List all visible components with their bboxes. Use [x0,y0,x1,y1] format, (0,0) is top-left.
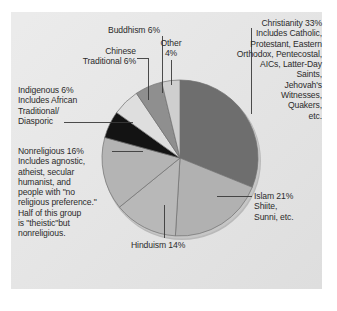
figure-canvas: Christianity 33%Islam 21%Hinduism 14%Non… [0,0,337,311]
slice-label-indigenous: Indigenous 6% Includes African Tradition… [18,85,124,126]
slice-label-islam: Islam 21% Shiite, Sunni, etc. [254,191,326,222]
slice-label-hinduism: Hinduism 14% [131,240,227,250]
slice-label-buddhism: Buddhism 6% [108,25,180,35]
slice-label-other: Other 4% [154,38,188,59]
slice-label-nonreligious: Nonreligious 16% Includes agnostic, athe… [18,146,130,239]
slice-label-chinese-traditional: Chinese Traditional 6% [52,46,136,67]
slice-label-christianity: Christianity 33% Includes Catholic, Prot… [196,18,322,121]
